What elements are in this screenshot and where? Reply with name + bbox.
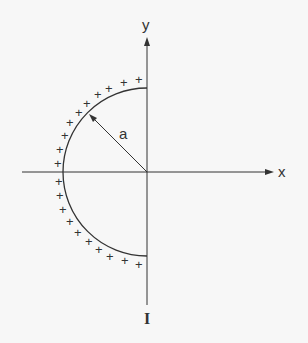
plus-charge-icon: + [56, 142, 64, 157]
plus-charge-icon: + [74, 225, 82, 240]
radius-label: a [119, 125, 128, 142]
plus-charge-icon: + [56, 188, 64, 203]
plus-charge-icon: + [54, 156, 62, 171]
plus-charge-icon: + [95, 242, 103, 257]
plus-charge-icon: + [135, 72, 143, 87]
plus-charge-icon: + [83, 96, 91, 111]
radius-arrow: a [89, 114, 147, 172]
plus-charge-icon: + [135, 257, 143, 272]
plus-charge-icon: + [94, 87, 102, 102]
plus-charge-icon: + [55, 174, 63, 189]
plus-charge-icon: + [121, 253, 129, 268]
y-axis: y [142, 16, 150, 305]
current-label: I [144, 310, 150, 327]
semicircle-charge-diagram: x y a I + + + + + + + + + + + [0, 0, 308, 343]
plus-charge-icon: + [61, 128, 69, 143]
plus-charge-icon: + [85, 234, 93, 249]
y-axis-arrow-icon [144, 37, 150, 46]
plus-charge-icon: + [120, 75, 128, 90]
plus-charge-icon: + [106, 249, 114, 264]
y-axis-label: y [142, 16, 150, 33]
x-axis-arrow-icon [265, 169, 274, 175]
plus-charge-icon: + [105, 81, 113, 96]
plus-charge-icon: + [66, 214, 74, 229]
x-axis-label: x [278, 163, 286, 180]
plus-charge-icon: + [75, 105, 83, 120]
